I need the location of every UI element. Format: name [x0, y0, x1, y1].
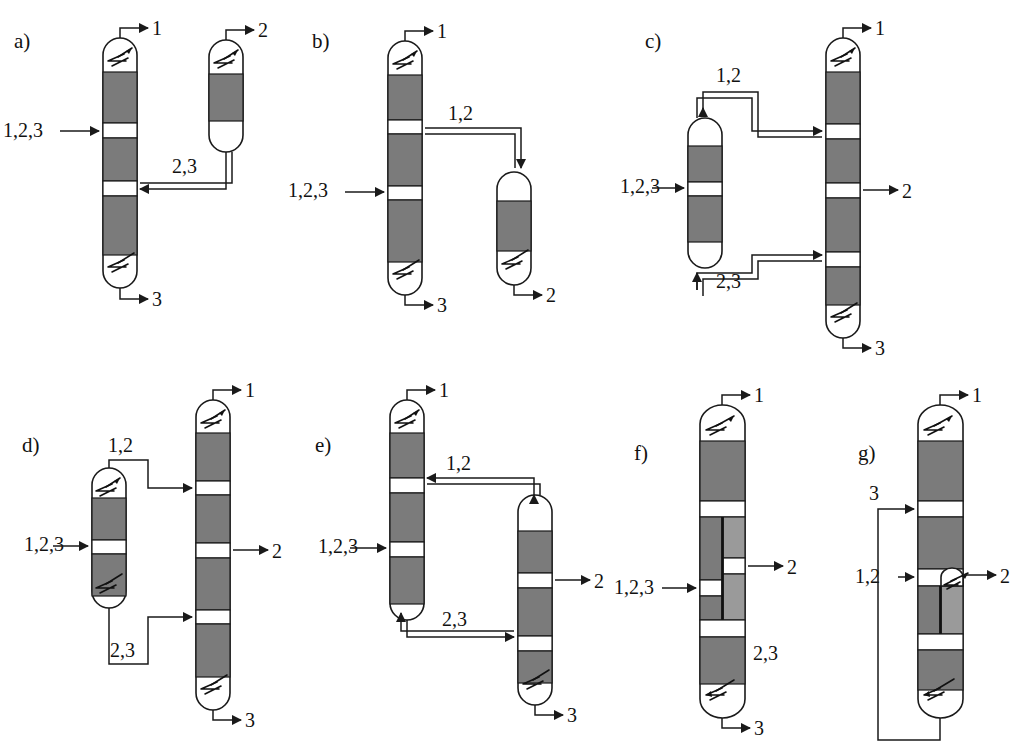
feed-stage-gap — [92, 540, 126, 554]
panel-e-main-column: 1 1,2,3 — [318, 379, 449, 620]
bottoms-pipe — [405, 295, 433, 305]
panel-a-main-column: 1 1,2,3 3 — [3, 17, 162, 310]
panel-g-dividing-wall-column: 1 2 1,2 3 — [855, 384, 1010, 740]
packing-section-bottom — [918, 650, 963, 690]
side-draw-gap — [196, 543, 230, 558]
packing-section — [688, 196, 722, 242]
stream-label-distillate: 1 — [152, 17, 162, 39]
packing-section — [92, 498, 126, 540]
stream-label-bottoms: 3 — [875, 337, 885, 359]
feed-stage-gap — [700, 580, 722, 596]
stream-label-lower-transfer: 2,3 — [110, 639, 135, 661]
packing-section — [103, 196, 137, 255]
upper-interconnect-gap — [826, 124, 860, 139]
packing-section — [196, 495, 230, 543]
liquid-return-gap — [390, 478, 424, 493]
bottoms-pipe — [535, 705, 563, 715]
packing-divided-right-upper — [723, 517, 745, 558]
panel-e-letter: e) — [315, 433, 331, 457]
feed-stage-gap — [103, 123, 137, 138]
stream-label-lower-interconnect: 2,3 — [716, 270, 741, 292]
packing-divided-left-lower — [700, 596, 722, 620]
packing-divided-right-lower — [723, 574, 745, 620]
stream-label-side-draw: 2 — [902, 180, 912, 202]
packing-section — [518, 531, 552, 573]
stream-label-lower-transfer: 2,3 — [442, 608, 467, 630]
packing-section — [826, 198, 860, 252]
upper-feed-gap — [196, 481, 230, 495]
distillate-pipe — [407, 390, 435, 400]
distillate-pipe — [120, 28, 148, 38]
stream-label-side-distillate: 2 — [258, 19, 268, 41]
bottoms-pipe — [843, 338, 871, 348]
panel-f-letter: f) — [634, 441, 648, 465]
stream-label-feed: 1,2,3 — [318, 535, 358, 557]
lower-split-gap — [700, 620, 745, 637]
stream-label-bottoms: 3 — [245, 709, 255, 731]
panel-d-main-column: 1 2 3 — [196, 379, 282, 731]
stream-label-recycle: 3 — [869, 482, 879, 504]
stream-label-feed: 1,2,3 — [620, 175, 660, 197]
side-condenser-assembly — [941, 568, 996, 589]
lower-feed-gap — [518, 636, 552, 651]
distillate-pipe — [213, 390, 241, 400]
packing-section — [209, 74, 243, 121]
recycle-inlet-gap — [918, 501, 963, 517]
packing-section — [196, 433, 230, 481]
panel-c: c) 1,2,3 1 — [620, 17, 912, 359]
stream-label-side-draw: 2 — [594, 570, 604, 592]
stream-label-side-draw: 2 — [272, 540, 282, 562]
distillate-pipe — [405, 31, 433, 41]
stream-label-feed: 1,2,3 — [614, 576, 654, 598]
panel-f: f) 1 — [614, 384, 797, 739]
packing-section-bottom — [700, 637, 745, 684]
panel-e: e) 1 1,2,3 — [315, 379, 604, 726]
packing-section — [388, 75, 422, 120]
packing-divided-left — [918, 586, 940, 634]
upper-vapour-return-pipe — [427, 478, 534, 495]
stream-label-distillate: 1 — [972, 384, 982, 406]
distillate-pipe — [226, 30, 254, 40]
stream-label-feed: 1,2,3 — [3, 119, 43, 141]
packing-section — [196, 558, 230, 610]
side-draw-gap — [518, 573, 552, 588]
bottoms-pipe — [722, 718, 750, 728]
panel-a-interconnect: 2,3 — [140, 152, 232, 189]
distillation-configurations-diagram: a) 1 1,2,3 — [0, 0, 1021, 754]
feed-stage-gap — [688, 182, 722, 196]
feed-stage-gap — [388, 186, 422, 200]
figure-canvas: a) 1 1,2,3 — [0, 0, 1021, 754]
stream-label-upper-return: 1,2 — [446, 452, 471, 474]
panel-b-side-stripper: 2 — [497, 172, 556, 306]
bottoms-pipe — [213, 710, 241, 720]
bottoms-pipe — [120, 288, 148, 299]
panel-g: g) 1 — [855, 384, 1010, 740]
packing-section — [390, 433, 424, 478]
packing-section — [103, 138, 137, 181]
distillate-pipe — [940, 395, 968, 405]
panel-a-side-rectifier: 2 — [209, 19, 268, 152]
lower-feed-gap — [196, 610, 230, 624]
stream-label-distillate: 1 — [875, 17, 885, 39]
stream-label-side-bottoms: 2 — [546, 284, 556, 306]
packing-section — [688, 146, 722, 182]
packing-divided-left-upper — [700, 517, 722, 580]
upper-liquid-pipe — [427, 484, 540, 495]
stream-label-distillate: 1 — [245, 379, 255, 401]
side-draw-gap — [723, 558, 745, 574]
stream-label-upper-transfer: 1,2 — [108, 434, 133, 456]
packing-section — [518, 588, 552, 636]
packing-section — [388, 200, 422, 262]
distillate-pipe — [722, 395, 750, 405]
panel-e-side-column: 2 3 — [518, 495, 604, 726]
packing-section-top — [918, 441, 963, 501]
stream-label-lower-section: 2,3 — [753, 642, 778, 664]
stream-label-bottoms: 3 — [567, 704, 577, 726]
lower-interconnect-gap — [826, 252, 860, 267]
panel-e-upper-return: 1,2 — [427, 452, 540, 502]
panel-g-letter: g) — [858, 441, 876, 465]
draw-stage-gap — [103, 181, 137, 196]
stream-label-feed: 1,2,3 — [288, 179, 328, 201]
packing-section — [196, 624, 230, 677]
stream-label-side-draw: 2 — [1000, 565, 1010, 587]
